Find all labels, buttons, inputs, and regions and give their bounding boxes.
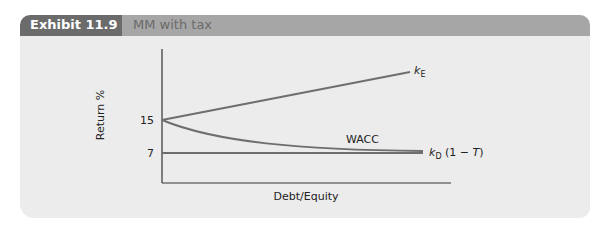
label-ke: kE <box>414 64 425 79</box>
label-kd-paren-close: ) <box>479 146 483 159</box>
series-wacc-curve <box>162 120 423 151</box>
label-wacc: WACC <box>346 133 379 146</box>
series-ke-line <box>162 72 410 120</box>
label-kd-paren-open: (1 − <box>442 146 473 159</box>
label-kd: kD (1 − T) <box>429 146 484 161</box>
y-axis-label: Return % <box>94 90 107 140</box>
x-axis-label: Debt/Equity <box>273 190 339 203</box>
chart: Return % 15 7 kE WACC kD (1 − T) Debt/Eq… <box>0 0 608 227</box>
y-tick-7: 7 <box>147 147 154 160</box>
y-tick-15: 15 <box>140 114 154 127</box>
label-ke-sub: E <box>420 70 425 79</box>
